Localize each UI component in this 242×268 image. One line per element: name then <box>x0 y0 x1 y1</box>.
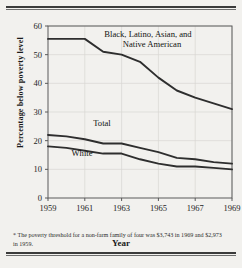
bottom-rule-thin <box>6 255 236 256</box>
y-axis-ticks: 0102030405060 <box>34 21 49 203</box>
gridlines <box>48 26 232 198</box>
x-tick-label: 1961 <box>76 203 93 213</box>
series-label-minority-line1: Black, Latino, Asian, and <box>104 29 192 39</box>
chart-container: Percentage below poverty level 010203040… <box>0 14 242 214</box>
series-line-0 <box>48 39 232 109</box>
x-tick-label: 1965 <box>150 203 167 213</box>
top-rule-thin <box>6 9 236 10</box>
series-lines: Black, Latino, Asian, andNative American… <box>48 29 232 169</box>
y-tick-label: 50 <box>34 50 43 60</box>
series-label-white: White <box>72 148 93 158</box>
y-tick-label: 40 <box>34 78 43 88</box>
poverty-line-chart: 0102030405060 195919611963196519671969 B… <box>0 14 242 214</box>
x-tick-label: 1967 <box>187 203 204 213</box>
x-tick-label: 1959 <box>40 203 57 213</box>
series-label-minority-line2: Native American <box>123 39 182 49</box>
footnote: * The poverty threshold for a non-farm f… <box>13 231 227 250</box>
y-tick-label: 10 <box>34 164 43 174</box>
bottom-rule-thick <box>6 252 236 254</box>
y-tick-label: 0 <box>38 193 42 203</box>
y-tick-label: 20 <box>34 136 43 146</box>
x-tick-label: 1963 <box>113 203 130 213</box>
x-axis-ticks: 195919611963196519671969 <box>40 198 241 213</box>
y-axis-title: Percentage below poverty level <box>16 13 25 173</box>
y-tick-label: 60 <box>34 21 43 31</box>
top-rule-thick <box>6 6 236 8</box>
series-label-total: Total <box>93 118 111 128</box>
figure-page: Percentage below poverty level 010203040… <box>0 0 242 268</box>
x-tick-label: 1969 <box>224 203 241 213</box>
y-tick-label: 30 <box>34 107 43 117</box>
